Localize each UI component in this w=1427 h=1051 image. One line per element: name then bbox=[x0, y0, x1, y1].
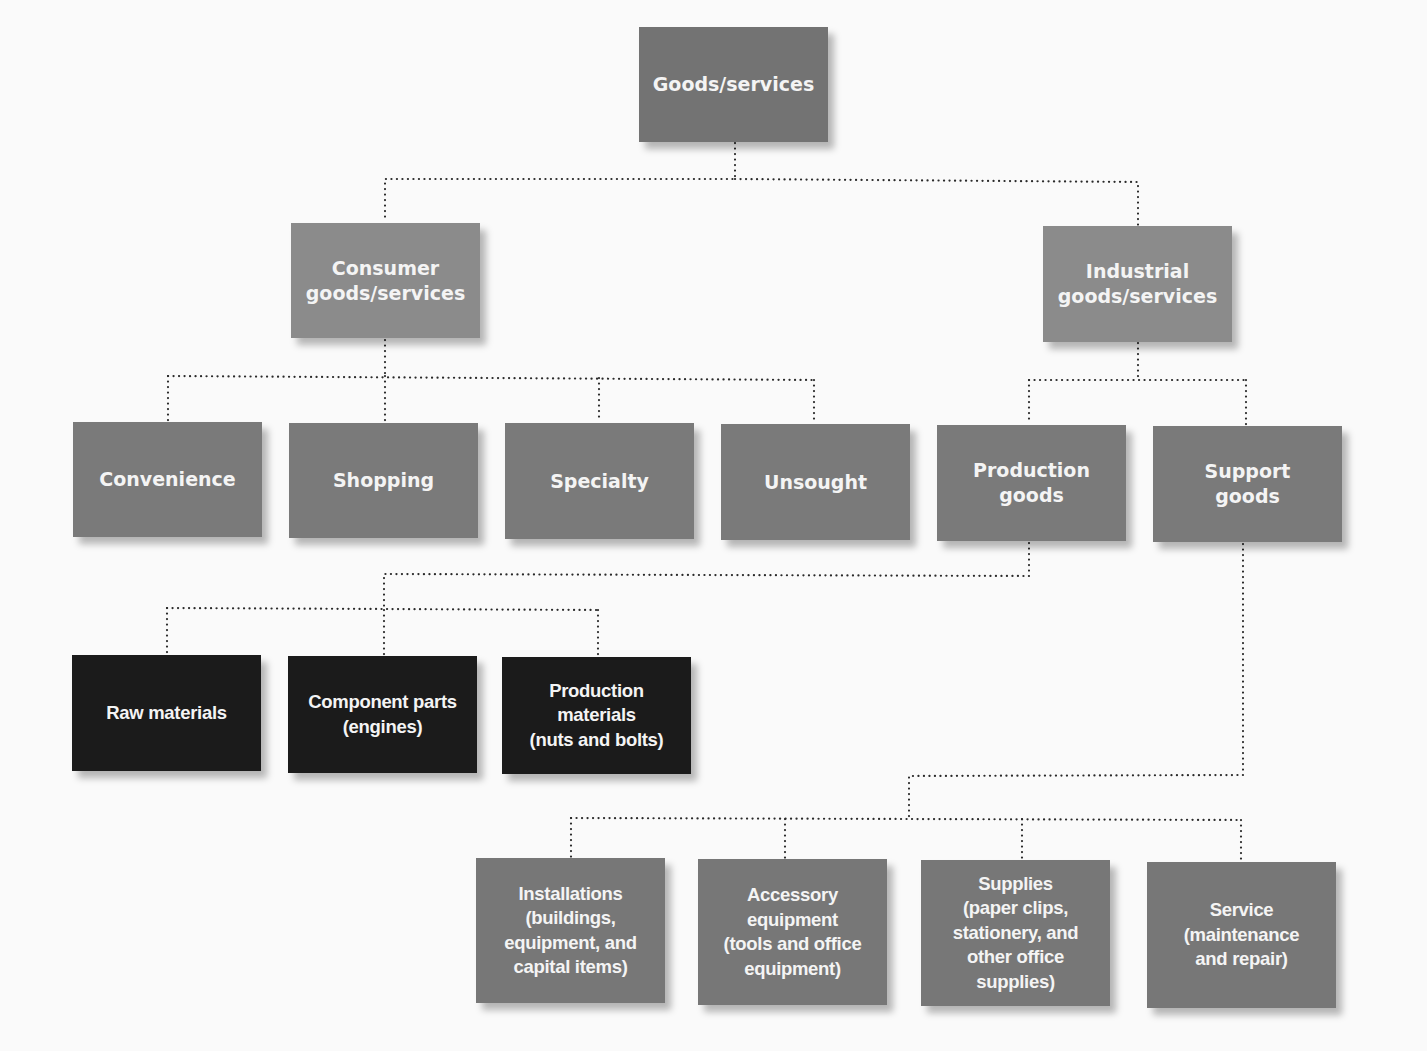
node-goods-services: Goods/services bbox=[639, 27, 828, 142]
node-installations: Installations (buildings, equipment, and… bbox=[476, 858, 665, 1003]
dotted-connector bbox=[909, 544, 1243, 818]
node-shopping: Shopping bbox=[289, 423, 478, 538]
dotted-connector bbox=[571, 818, 1241, 820]
dotted-connector bbox=[168, 376, 814, 380]
node-component-parts: Component parts (engines) bbox=[288, 656, 477, 773]
node-unsought: Unsought bbox=[721, 424, 910, 540]
node-supplies: Supplies (paper clips, stationery, and o… bbox=[921, 860, 1110, 1006]
dotted-connector bbox=[385, 143, 735, 222]
node-specialty: Specialty bbox=[505, 423, 694, 539]
node-production-materials: Production materials (nuts and bolts) bbox=[502, 657, 691, 774]
dotted-connector bbox=[384, 543, 1029, 610]
node-support-goods: Support goods bbox=[1153, 426, 1342, 542]
goods-classification-diagram: Goods/services Consumer goods/services I… bbox=[0, 0, 1427, 1051]
node-service: Service (maintenance and repair) bbox=[1147, 862, 1336, 1008]
node-production-goods: Production goods bbox=[937, 425, 1126, 541]
node-raw-materials: Raw materials bbox=[72, 655, 261, 771]
node-convenience: Convenience bbox=[73, 422, 262, 537]
dotted-connector bbox=[167, 608, 598, 610]
node-consumer-goods-services: Consumer goods/services bbox=[291, 223, 480, 338]
node-accessory-equipment: Accessory equipment (tools and office eq… bbox=[698, 859, 887, 1005]
node-industrial-goods-services: Industrial goods/services bbox=[1043, 226, 1232, 342]
dotted-connector bbox=[735, 179, 1138, 225]
